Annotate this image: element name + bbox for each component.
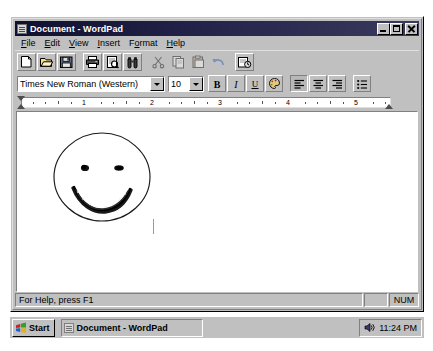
scissors-icon: [151, 55, 166, 69]
underline-button[interactable]: U: [246, 75, 264, 92]
taskbar-item-wordpad[interactable]: Document - WordPad: [61, 319, 203, 337]
find-button[interactable]: [123, 53, 142, 71]
minimize-icon: [380, 30, 386, 32]
clipboard-icon: [191, 55, 206, 69]
date-time-button[interactable]: [235, 53, 254, 71]
desktop-screen: Document - WordPad FFileile Edit View In…: [0, 0, 433, 351]
ruler-number: 2: [150, 98, 154, 108]
bullet-list-icon: [356, 78, 369, 90]
bold-icon: B: [211, 78, 223, 90]
ruler-number: 5: [354, 98, 358, 108]
ruler[interactable]: 1 2 3 4 5: [15, 95, 419, 111]
align-left-button[interactable]: [290, 75, 308, 92]
italic-icon: I: [230, 78, 242, 90]
system-tray: 11:24 PM: [359, 319, 422, 337]
align-center-icon: [312, 78, 325, 90]
svg-text:B: B: [214, 78, 221, 89]
ruler-number: 3: [218, 98, 222, 108]
paste-button[interactable]: [189, 53, 208, 71]
hand-drawn-smiley-face-drawing: [47, 130, 157, 225]
taskbar-item-label: Document - WordPad: [77, 323, 168, 333]
standard-toolbar: [15, 50, 419, 73]
window-inner: Document - WordPad FFileile Edit View In…: [12, 18, 422, 310]
title-bar[interactable]: Document - WordPad: [15, 21, 419, 36]
minimize-button[interactable]: [377, 23, 390, 35]
save-button[interactable]: [57, 53, 76, 71]
maximize-button[interactable]: [390, 23, 403, 35]
align-right-icon: [331, 78, 344, 90]
status-num-lock: NUM: [389, 293, 419, 307]
chevron-down-icon[interactable]: [150, 77, 164, 91]
italic-button[interactable]: I: [227, 75, 245, 92]
bullets-button[interactable]: [353, 75, 371, 92]
align-left-icon: [293, 78, 306, 90]
ruler-number: 4: [286, 98, 290, 108]
open-button[interactable]: [37, 53, 56, 71]
right-indent-marker[interactable]: [385, 104, 393, 109]
printer-icon: [85, 55, 100, 69]
underline-icon: U: [249, 78, 261, 90]
open-folder-icon: [39, 55, 54, 69]
font-color-button[interactable]: [265, 75, 283, 92]
print-button[interactable]: [83, 53, 102, 71]
menu-item-view[interactable]: View: [65, 37, 93, 50]
document-canvas[interactable]: [16, 111, 418, 292]
binoculars-icon: [125, 55, 140, 69]
clock[interactable]: 11:24 PM: [379, 323, 417, 333]
ruler-number: 1: [82, 98, 86, 108]
undo-arrow-icon: [211, 55, 226, 69]
menu-item-format[interactable]: Format: [125, 37, 163, 50]
speaker-icon[interactable]: [364, 322, 375, 333]
date-time-icon: [237, 55, 252, 69]
font-size-combobox[interactable]: 10: [168, 76, 204, 92]
window-title: Document - WordPad: [30, 24, 377, 34]
align-center-button[interactable]: [309, 75, 327, 92]
start-button[interactable]: Start: [12, 319, 55, 337]
floppy-disk-icon: [59, 55, 74, 69]
new-document-button[interactable]: [17, 53, 36, 71]
menu-item-insert[interactable]: Insert: [93, 37, 125, 50]
cut-button: [149, 53, 168, 71]
print-preview-button[interactable]: [103, 53, 122, 71]
menu-item-file[interactable]: FFileile: [17, 37, 41, 50]
copy-button[interactable]: [169, 53, 188, 71]
new-page-icon: [19, 55, 34, 69]
document-icon: [17, 24, 27, 34]
print-preview-icon: [105, 55, 120, 69]
menu-item-help[interactable]: Help: [162, 37, 190, 50]
svg-text:U: U: [252, 79, 259, 89]
format-bar: Times New Roman (Western) 10 B I: [15, 73, 419, 94]
ruler-track: 1 2 3 4 5: [21, 97, 391, 108]
align-right-button[interactable]: [328, 75, 346, 92]
text-caret: [153, 219, 154, 234]
color-palette-icon: [268, 77, 281, 90]
undo-button[interactable]: [209, 53, 228, 71]
maximize-icon: [393, 25, 400, 32]
chevron-down-icon[interactable]: [189, 77, 203, 91]
status-blank-pane: [364, 293, 388, 307]
menu-bar: FFileile Edit View Insert Format Help: [15, 36, 419, 50]
font-name-combobox[interactable]: Times New Roman (Western): [17, 76, 165, 92]
left-indent-marker[interactable]: [17, 104, 25, 109]
copy-icon: [171, 55, 186, 69]
bold-button[interactable]: B: [208, 75, 226, 92]
status-help-text: For Help, press F1: [15, 293, 363, 307]
windows-flag-icon: [15, 322, 27, 334]
document-icon: [64, 323, 74, 333]
svg-text:I: I: [233, 78, 238, 89]
first-line-indent-marker[interactable]: [17, 96, 25, 101]
close-button[interactable]: [405, 23, 418, 35]
font-size-value: 10: [169, 78, 189, 90]
window-controls: [377, 23, 418, 35]
status-bar: For Help, press F1 NUM: [15, 292, 419, 307]
wordpad-window: Document - WordPad FFileile Edit View In…: [10, 16, 424, 312]
menu-item-edit[interactable]: Edit: [41, 37, 66, 50]
start-button-label: Start: [29, 323, 50, 333]
taskbar: Start Document - WordPad 11:24 PM: [10, 316, 424, 338]
font-name-value: Times New Roman (Western): [18, 78, 150, 90]
